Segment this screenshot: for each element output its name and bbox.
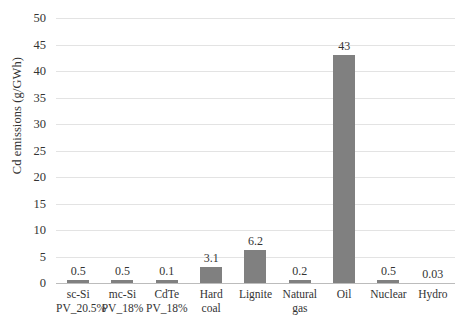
x-axis-category-5: Lignite xyxy=(233,287,277,301)
x-axis-category-9: Hydro xyxy=(411,287,455,301)
bar xyxy=(289,280,311,283)
bar xyxy=(244,250,266,283)
y-axis-tick-label: 25 xyxy=(18,145,46,158)
y-axis-tick-label: 45 xyxy=(18,39,46,52)
x-axis-category-6: Naturalgas xyxy=(278,287,322,315)
bar-value-label: 0.2 xyxy=(292,265,307,277)
bar xyxy=(67,280,89,283)
category-label-line1: Oil xyxy=(322,287,366,301)
bar-value-label: 6.2 xyxy=(248,235,263,247)
bar xyxy=(200,267,222,283)
y-axis-tick-label: 35 xyxy=(18,92,46,105)
bar-value-label: 0.5 xyxy=(71,265,86,277)
x-axis-category-4: Hardcoal xyxy=(189,287,233,315)
bar-column: 0.1 xyxy=(145,18,189,283)
x-axis-category-8: Nuclear xyxy=(366,287,410,301)
bar-value-label: 0.03 xyxy=(422,268,443,280)
category-label-line2: PV_20.5% xyxy=(56,301,100,315)
y-axis-tick-label: 10 xyxy=(18,224,46,237)
bar-column: 0.2 xyxy=(278,18,322,283)
category-label-line1: Lignite xyxy=(233,287,277,301)
bar xyxy=(156,280,178,283)
bar-value-label: 43 xyxy=(338,40,350,52)
category-label-line1: CdTe xyxy=(145,287,189,301)
y-axis-tick-label: 50 xyxy=(18,12,46,25)
bar xyxy=(111,280,133,283)
bar xyxy=(377,280,399,283)
category-label-line1: sc-Si xyxy=(56,287,100,301)
bar-column: 0.5 xyxy=(100,18,144,283)
bar-value-label: 0.1 xyxy=(159,265,174,277)
category-label-line2: gas xyxy=(278,301,322,315)
category-label-line1: mc-Si xyxy=(100,287,144,301)
cd-emissions-bar-chart: Cd emissions (g/GWh) 5045403530252015105… xyxy=(0,0,466,326)
category-label-line2: PV_18% xyxy=(145,301,189,315)
y-axis-tick-label: 15 xyxy=(18,198,46,211)
category-label-line2: PV_18% xyxy=(100,301,144,315)
bar-value-label: 0.5 xyxy=(115,265,130,277)
bar xyxy=(333,55,355,283)
bar-column: 0.5 xyxy=(56,18,100,283)
x-axis-category-labels: sc-SiPV_20.5%mc-SiPV_18%CdTePV_18%Hardco… xyxy=(56,287,455,325)
bar-column: 0.5 xyxy=(366,18,410,283)
x-axis-category-1: sc-SiPV_20.5% xyxy=(56,287,100,315)
category-label-line1: Hard xyxy=(189,287,233,301)
y-axis-tick-label: 20 xyxy=(18,171,46,184)
bar-value-label: 0.5 xyxy=(381,265,396,277)
category-label-line1: Natural xyxy=(278,287,322,301)
bar-column: 3.1 xyxy=(189,18,233,283)
category-label-line1: Hydro xyxy=(411,287,455,301)
x-axis-category-2: mc-SiPV_18% xyxy=(100,287,144,315)
bar-column: 0.03 xyxy=(411,18,455,283)
y-axis-tick-label: 40 xyxy=(18,65,46,78)
bar-column: 6.2 xyxy=(233,18,277,283)
bar-series: 0.50.50.13.16.20.2430.50.03 xyxy=(56,18,455,283)
bar-value-label: 3.1 xyxy=(204,252,219,264)
category-label-line2: coal xyxy=(189,301,233,315)
x-axis-category-7: Oil xyxy=(322,287,366,301)
y-axis-tick-label: 5 xyxy=(18,251,46,264)
category-label-line1: Nuclear xyxy=(366,287,410,301)
y-axis-tick-label: 0 xyxy=(18,277,46,290)
x-axis-category-3: CdTePV_18% xyxy=(145,287,189,315)
x-axis-line xyxy=(56,283,455,284)
y-axis-tick-label: 30 xyxy=(18,118,46,131)
bar-column: 43 xyxy=(322,18,366,283)
